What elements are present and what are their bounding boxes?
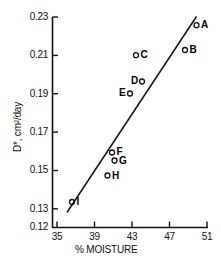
y-tick-label-1: 0.21 <box>16 49 48 60</box>
x-tick-label-0: 35 <box>44 231 70 242</box>
data-point-g <box>112 158 117 163</box>
y-axis-ticks <box>53 17 59 209</box>
point-label-b: B <box>190 45 197 55</box>
data-point-markers <box>70 23 200 205</box>
x-axis-title: % MOISTURE <box>75 244 137 255</box>
scatter-chart: 0.23 0.21 0.19 0.17 0.15 0.13 0.12 35 39… <box>0 0 221 270</box>
point-label-d: D <box>131 76 138 86</box>
data-point-c <box>134 53 139 58</box>
data-point-e <box>128 91 133 96</box>
point-label-a: A <box>201 20 208 30</box>
data-point-d <box>140 79 145 84</box>
data-point-f <box>110 150 115 155</box>
y-tick-label-2: 0.19 <box>16 88 48 99</box>
data-point-b <box>183 48 188 53</box>
x-tick-label-3: 47 <box>157 231 183 242</box>
point-label-i: I <box>77 197 80 207</box>
x-tick-label-1: 39 <box>82 231 108 242</box>
y-axis-title: D*, cm²/day <box>12 102 23 152</box>
data-point-h <box>105 173 110 178</box>
point-label-g: G <box>119 156 127 166</box>
y-tick-label-4: 0.15 <box>16 164 48 175</box>
point-label-c: C <box>141 50 148 60</box>
y-tick-label-0: 0.23 <box>16 11 48 22</box>
point-label-h: H <box>112 171 119 181</box>
x-axis-ticks <box>57 222 207 228</box>
trend-line <box>67 17 197 213</box>
y-tick-label-5: 0.13 <box>16 203 48 214</box>
x-tick-label-2: 43 <box>119 231 145 242</box>
x-tick-label-4: 51 <box>194 231 220 242</box>
data-point-a <box>194 23 199 28</box>
point-label-e: E <box>119 88 126 98</box>
